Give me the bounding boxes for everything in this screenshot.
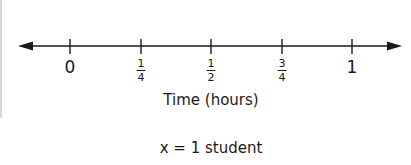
axis-title: Time (hours) bbox=[163, 91, 258, 109]
legend-key: x = 1 student bbox=[160, 139, 263, 157]
denominator: 4 bbox=[279, 72, 286, 83]
numerator: 3 bbox=[279, 58, 286, 69]
left-arrow-icon bbox=[18, 42, 33, 51]
tick-label-half: 1 2 bbox=[207, 58, 216, 83]
tick-label-1: 1 bbox=[347, 59, 358, 76]
right-arrow-icon bbox=[387, 42, 402, 51]
denominator: 2 bbox=[208, 72, 215, 83]
numerator: 1 bbox=[138, 58, 145, 69]
denominator: 4 bbox=[138, 72, 145, 83]
tick-label-quarter: 1 4 bbox=[137, 58, 146, 83]
numerator: 1 bbox=[208, 58, 215, 69]
tick-label-three-quarters: 3 4 bbox=[278, 58, 287, 83]
tick-label-0: 0 bbox=[65, 59, 76, 76]
